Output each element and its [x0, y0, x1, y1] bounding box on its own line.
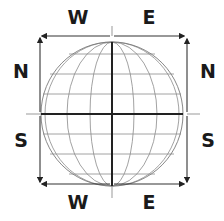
label-top-west: W: [66, 8, 90, 27]
globe-svg: [0, 0, 224, 221]
label-bottom-west: W: [66, 193, 90, 212]
label-bottom-east: E: [137, 193, 161, 212]
globe-orientation-diagram: W E N N S S W E: [0, 0, 224, 221]
label-top-east: E: [137, 8, 161, 27]
label-right-south: S: [196, 131, 220, 150]
label-right-north: N: [196, 62, 220, 81]
label-left-south: S: [9, 131, 33, 150]
label-left-north: N: [9, 62, 33, 81]
